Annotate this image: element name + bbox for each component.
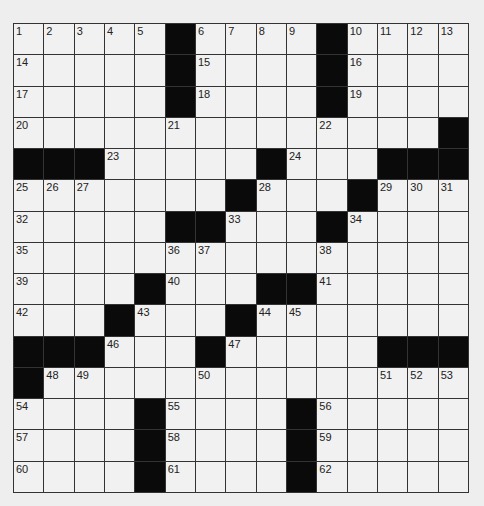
crossword-cell[interactable]: 33 bbox=[226, 212, 255, 242]
crossword-cell[interactable] bbox=[378, 430, 407, 460]
crossword-cell[interactable] bbox=[408, 430, 437, 460]
crossword-cell[interactable] bbox=[75, 118, 104, 148]
crossword-cell[interactable] bbox=[196, 149, 225, 179]
crossword-cell[interactable]: 28 bbox=[257, 180, 286, 210]
crossword-cell[interactable]: 39 bbox=[14, 274, 43, 304]
crossword-cell[interactable]: 36 bbox=[166, 243, 195, 273]
crossword-cell[interactable]: 23 bbox=[105, 149, 134, 179]
crossword-cell[interactable] bbox=[226, 274, 255, 304]
crossword-cell[interactable]: 1 bbox=[14, 24, 43, 54]
crossword-cell[interactable] bbox=[408, 87, 437, 117]
crossword-cell[interactable]: 20 bbox=[14, 118, 43, 148]
crossword-cell[interactable] bbox=[317, 305, 346, 335]
crossword-cell[interactable] bbox=[287, 118, 316, 148]
crossword-cell[interactable] bbox=[196, 430, 225, 460]
crossword-cell[interactable] bbox=[226, 368, 255, 398]
crossword-cell[interactable] bbox=[135, 149, 164, 179]
crossword-cell[interactable] bbox=[378, 305, 407, 335]
crossword-cell[interactable] bbox=[348, 462, 377, 492]
crossword-cell[interactable] bbox=[378, 462, 407, 492]
crossword-cell[interactable] bbox=[257, 337, 286, 367]
crossword-cell[interactable] bbox=[257, 368, 286, 398]
crossword-cell[interactable]: 12 bbox=[408, 24, 437, 54]
crossword-cell[interactable]: 45 bbox=[287, 305, 316, 335]
crossword-cell[interactable]: 61 bbox=[166, 462, 195, 492]
crossword-cell[interactable] bbox=[75, 55, 104, 85]
crossword-cell[interactable] bbox=[166, 368, 195, 398]
crossword-cell[interactable] bbox=[196, 462, 225, 492]
crossword-cell[interactable] bbox=[44, 274, 73, 304]
crossword-cell[interactable]: 44 bbox=[257, 305, 286, 335]
crossword-cell[interactable] bbox=[75, 305, 104, 335]
crossword-cell[interactable] bbox=[226, 430, 255, 460]
crossword-cell[interactable] bbox=[105, 243, 134, 273]
crossword-cell[interactable] bbox=[378, 118, 407, 148]
crossword-cell[interactable] bbox=[378, 87, 407, 117]
crossword-cell[interactable] bbox=[439, 243, 468, 273]
crossword-cell[interactable] bbox=[378, 55, 407, 85]
crossword-cell[interactable] bbox=[44, 399, 73, 429]
crossword-cell[interactable] bbox=[226, 462, 255, 492]
crossword-cell[interactable] bbox=[439, 55, 468, 85]
crossword-cell[interactable] bbox=[287, 180, 316, 210]
crossword-cell[interactable]: 32 bbox=[14, 212, 43, 242]
crossword-cell[interactable]: 37 bbox=[196, 243, 225, 273]
crossword-cell[interactable] bbox=[408, 274, 437, 304]
crossword-cell[interactable]: 18 bbox=[196, 87, 225, 117]
crossword-cell[interactable] bbox=[196, 399, 225, 429]
crossword-cell[interactable] bbox=[105, 55, 134, 85]
crossword-cell[interactable] bbox=[75, 462, 104, 492]
crossword-cell[interactable] bbox=[348, 243, 377, 273]
crossword-cell[interactable]: 47 bbox=[226, 337, 255, 367]
crossword-cell[interactable] bbox=[287, 55, 316, 85]
crossword-cell[interactable] bbox=[408, 462, 437, 492]
crossword-cell[interactable] bbox=[135, 368, 164, 398]
crossword-cell[interactable] bbox=[105, 274, 134, 304]
crossword-cell[interactable] bbox=[105, 180, 134, 210]
crossword-cell[interactable]: 22 bbox=[317, 118, 346, 148]
crossword-cell[interactable] bbox=[226, 243, 255, 273]
crossword-cell[interactable] bbox=[105, 399, 134, 429]
crossword-cell[interactable]: 11 bbox=[378, 24, 407, 54]
crossword-cell[interactable]: 27 bbox=[75, 180, 104, 210]
crossword-cell[interactable]: 50 bbox=[196, 368, 225, 398]
crossword-cell[interactable]: 25 bbox=[14, 180, 43, 210]
crossword-cell[interactable] bbox=[135, 212, 164, 242]
crossword-cell[interactable] bbox=[75, 430, 104, 460]
crossword-cell[interactable] bbox=[348, 118, 377, 148]
crossword-cell[interactable] bbox=[378, 399, 407, 429]
crossword-cell[interactable] bbox=[408, 118, 437, 148]
crossword-cell[interactable] bbox=[378, 243, 407, 273]
crossword-cell[interactable] bbox=[75, 212, 104, 242]
crossword-cell[interactable] bbox=[75, 243, 104, 273]
crossword-cell[interactable] bbox=[105, 368, 134, 398]
crossword-cell[interactable]: 40 bbox=[166, 274, 195, 304]
crossword-cell[interactable] bbox=[166, 305, 195, 335]
crossword-cell[interactable] bbox=[75, 399, 104, 429]
crossword-cell[interactable]: 53 bbox=[439, 368, 468, 398]
crossword-cell[interactable] bbox=[166, 149, 195, 179]
crossword-cell[interactable]: 49 bbox=[75, 368, 104, 398]
crossword-cell[interactable] bbox=[439, 87, 468, 117]
crossword-cell[interactable]: 9 bbox=[287, 24, 316, 54]
crossword-cell[interactable]: 59 bbox=[317, 430, 346, 460]
crossword-cell[interactable] bbox=[348, 305, 377, 335]
crossword-cell[interactable]: 60 bbox=[14, 462, 43, 492]
crossword-cell[interactable] bbox=[135, 337, 164, 367]
crossword-cell[interactable] bbox=[44, 243, 73, 273]
crossword-cell[interactable] bbox=[408, 243, 437, 273]
crossword-cell[interactable] bbox=[439, 399, 468, 429]
crossword-cell[interactable]: 51 bbox=[378, 368, 407, 398]
crossword-cell[interactable] bbox=[257, 430, 286, 460]
crossword-cell[interactable] bbox=[135, 55, 164, 85]
crossword-cell[interactable]: 4 bbox=[105, 24, 134, 54]
crossword-cell[interactable]: 14 bbox=[14, 55, 43, 85]
crossword-cell[interactable] bbox=[226, 149, 255, 179]
crossword-cell[interactable] bbox=[439, 305, 468, 335]
crossword-cell[interactable]: 34 bbox=[348, 212, 377, 242]
crossword-cell[interactable] bbox=[287, 368, 316, 398]
crossword-cell[interactable]: 16 bbox=[348, 55, 377, 85]
crossword-cell[interactable] bbox=[408, 55, 437, 85]
crossword-cell[interactable]: 19 bbox=[348, 87, 377, 117]
crossword-cell[interactable]: 17 bbox=[14, 87, 43, 117]
